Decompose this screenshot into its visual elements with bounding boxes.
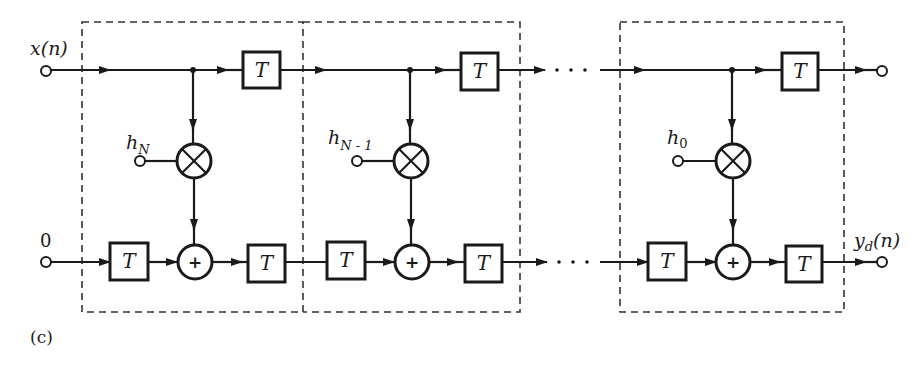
delay-top-1: T [243,52,280,88]
output-terminal-top [877,66,887,76]
svg-text:+: + [188,252,202,272]
delay-bottom-3a: T [648,243,686,280]
coef-label-h0: h0 [667,126,688,151]
panel-label: (c) [30,327,53,347]
adder-2: + [395,245,429,279]
delay-top-2: T [461,53,498,90]
coef-terminal-hN-1 [352,156,362,166]
adder-1: + [178,245,212,279]
delay-bottom-1a: T [110,243,148,280]
svg-text:+: + [726,252,740,272]
delay-top-3: T [782,53,818,90]
output-label-yd: yd(n) [853,229,900,254]
delay-bottom-2a: T [327,242,365,279]
delay-bottom-3b: T [786,246,822,282]
svg-text:T: T [477,251,492,275]
fir-filter-diagram: + + + T T T T T T T T T [0,0,922,369]
coef-label-hN-1: hN - 1 [328,126,373,153]
multiplier-1 [177,144,211,178]
delay-bottom-1b: T [248,245,285,282]
svg-text:T: T [255,58,270,82]
input-label-zero: 0 [40,230,51,251]
bottom-ellipsis [557,260,589,264]
multiplier-3 [716,144,750,178]
svg-text:T: T [797,252,812,276]
svg-text:+: + [405,252,419,272]
svg-text:T: T [660,249,675,273]
input-terminal-zero [41,257,51,267]
svg-text:T: T [122,249,137,273]
output-terminal-yd [877,257,887,267]
svg-text:T: T [260,251,275,275]
coef-label-hN: hN [126,131,150,157]
tap-lines [193,70,733,244]
coef-terminal-hN [135,156,145,166]
delay-bottom-2b: T [465,245,502,282]
input-terminal-x [41,66,51,76]
svg-text:T: T [793,59,808,83]
svg-text:T: T [473,59,488,83]
top-ellipsis [555,68,587,72]
input-label-x: x(n) [30,37,68,59]
coef-terminal-h0 [673,156,683,166]
svg-text:T: T [339,248,354,272]
adder-3: + [716,245,750,279]
multiplier-2 [394,144,428,178]
